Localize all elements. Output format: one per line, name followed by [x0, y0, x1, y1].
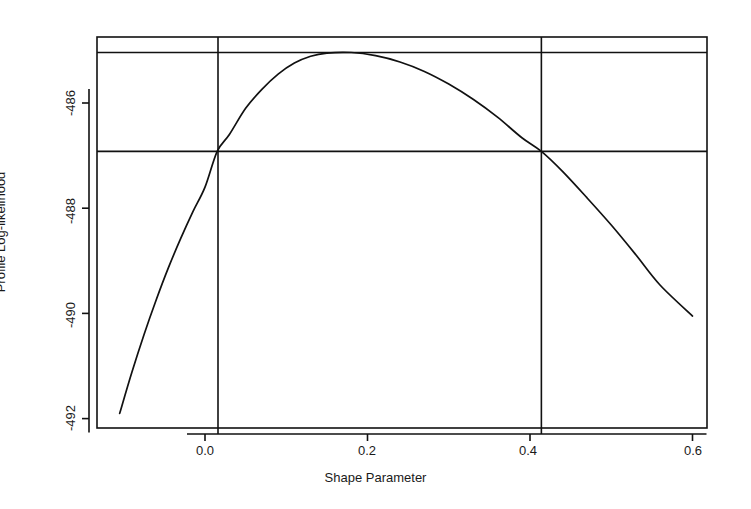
- y-tick-label-2: -490: [63, 302, 78, 328]
- y-tick-label-0: -486: [63, 90, 78, 116]
- y-tick-label-1: -488: [63, 198, 78, 224]
- x-axis-title: Shape Parameter: [0, 470, 751, 485]
- y-tick-label-3: -492: [63, 405, 78, 431]
- x-tick-label-3: 0.6: [684, 443, 702, 458]
- profile-loglikelihood-curve: [120, 52, 693, 413]
- plot-box: [97, 37, 707, 428]
- x-tick-label-2: 0.4: [519, 443, 537, 458]
- y-axis-title: Profile Log-likelihood: [0, 172, 8, 293]
- profile-loglikelihood-figure: 0.0 0.2 0.4 0.6 -486 -488 -490 -492 Shap…: [0, 0, 751, 509]
- plot-canvas: [0, 0, 751, 509]
- x-tick-label-0: 0.0: [196, 443, 214, 458]
- x-tick-label-1: 0.2: [358, 443, 376, 458]
